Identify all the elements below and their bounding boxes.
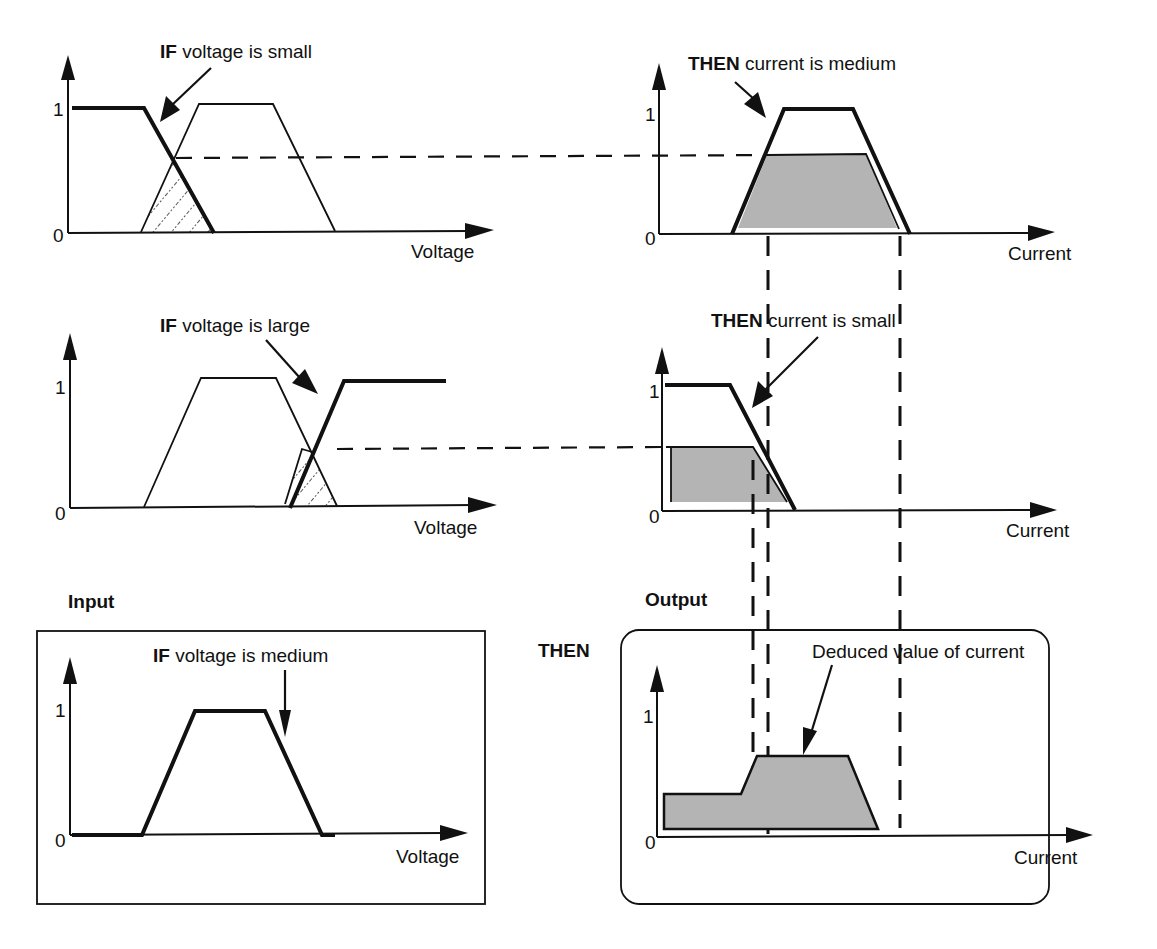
x-axis: [659, 233, 1035, 234]
pointer-arrow: [765, 337, 818, 390]
y-axis-arrow-icon: [655, 347, 669, 374]
pointer-arrow-icon: [279, 710, 291, 737]
output-title: Output: [645, 589, 708, 610]
input-title: Input: [68, 591, 115, 612]
tick-0: 0: [53, 225, 64, 246]
pointer-arrow: [266, 340, 300, 378]
tick-1: 1: [649, 381, 660, 402]
x-axis-arrow-icon: [1028, 225, 1055, 241]
panel-rule1-then: 1 0 Current THEN current is medium: [645, 53, 1072, 264]
mf-input-medium: [72, 711, 335, 835]
rule1-then-label: THEN current is medium: [688, 53, 896, 74]
tick-1: 1: [645, 104, 656, 125]
aggregated-output-area: [664, 756, 878, 829]
x-axis-label: Current: [1008, 243, 1072, 264]
panel-rule2-then: 1 0 Current THEN current is small: [649, 310, 1070, 541]
y-axis-arrow-icon: [650, 665, 664, 692]
panel-rule1-if: 1 0 Voltage IF voltage is small: [53, 41, 494, 262]
x-axis-label: Voltage: [396, 846, 459, 867]
x-axis-arrow-icon: [1030, 502, 1057, 518]
rule1-if-label: IF voltage is small: [160, 41, 312, 62]
x-axis: [70, 505, 475, 508]
panel-rule2-if: 1 0 Voltage IF voltage is large: [55, 315, 497, 538]
rule2-if-label: IF voltage is large: [160, 315, 310, 336]
x-axis-label: Voltage: [411, 241, 474, 262]
tick-1: 1: [55, 377, 66, 398]
fuzzy-inference-diagram: 1 0 Voltage IF voltage is small 1 0 Curr…: [0, 0, 1157, 949]
x-axis-label: Current: [1014, 847, 1078, 868]
rule2-firing-level-line: [337, 447, 662, 449]
then-label: THEN: [538, 640, 590, 661]
pointer-arrow-icon: [744, 92, 766, 118]
tick-1: 1: [643, 706, 654, 727]
x-axis-label: Current: [1006, 520, 1070, 541]
tick-1: 1: [53, 99, 64, 120]
rule2-then-label: THEN current is small: [711, 310, 896, 331]
rule1-firing-level-line: [176, 155, 780, 158]
x-axis: [662, 510, 1035, 511]
panel-output: Output THEN 1 0 Current Deduced value of…: [538, 589, 1093, 904]
panel-input: Input 1 0 Voltage IF voltage is medium: [37, 591, 485, 904]
pointer-arrow: [172, 68, 211, 105]
tick-1: 1: [55, 700, 66, 721]
y-axis-arrow-icon: [61, 55, 75, 80]
tick-0: 0: [55, 830, 66, 851]
x-axis: [68, 231, 470, 233]
x-axis-arrow-icon: [440, 825, 468, 841]
tick-0: 0: [55, 503, 66, 524]
x-axis-arrow-icon: [468, 497, 497, 513]
tick-0: 0: [645, 228, 656, 249]
deduced-value-label: Deduced value of current: [812, 641, 1025, 662]
x-axis-arrow-icon: [465, 223, 494, 239]
x-axis-arrow-icon: [1066, 827, 1093, 843]
tick-0: 0: [649, 506, 660, 527]
tick-0: 0: [645, 832, 656, 853]
x-axis-label: Voltage: [414, 517, 477, 538]
y-axis-arrow-icon: [63, 657, 77, 684]
pointer-arrow: [812, 665, 832, 730]
input-label: IF voltage is medium: [153, 645, 328, 666]
y-axis-arrow-icon: [63, 333, 77, 360]
pointer-arrow-icon: [803, 727, 817, 755]
y-axis-arrow-icon: [652, 63, 666, 90]
x-axis: [657, 835, 1070, 837]
